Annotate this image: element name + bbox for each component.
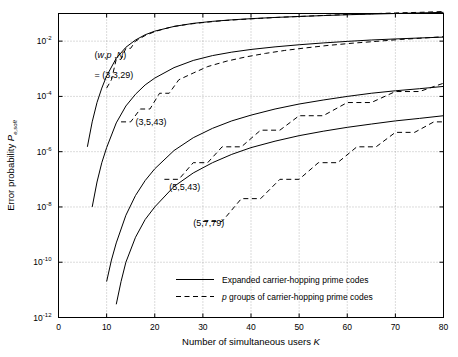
series-group [87,12,443,305]
ytick-label: 10-6 [37,146,52,157]
legend: Expanded carrier-hopping prime codesp gr… [176,275,373,302]
annotation-4: (5,7,79) [193,218,224,228]
ytick-label: 10-12 [33,312,52,323]
legend-label-1: p groups of carrier-hopping prime codes [221,292,373,302]
xtick-label: 0 [56,322,61,332]
chart-svg: 0102030405060708010-210-410-610-810-1010… [0,0,458,357]
xtick-label: 20 [150,322,160,332]
ytick-label: 10-10 [33,256,52,267]
y-axis-label: Error probability Pe,soft [5,120,18,211]
xtick-label: 60 [343,322,353,332]
figure-canvas: 0102030405060708010-210-410-610-810-1010… [0,0,458,357]
x-axis-label: Number of simultaneous users K [182,336,320,347]
legend-label-0: Expanded carrier-hopping prime codes [222,275,368,285]
series-line-7 [203,122,444,222]
annotation-1: = (3,3,29) [95,70,134,80]
xtick-label: 50 [294,322,304,332]
xtick-label: 70 [391,322,401,332]
xtick-label: 10 [102,322,112,332]
ytick-label: 10-2 [37,35,52,46]
xtick-label: 80 [439,322,449,332]
xtick-label: 40 [246,322,256,332]
ytick-label: 10-8 [37,201,52,212]
ytick-label: 10-4 [37,90,52,101]
annotation-3: (5,5,43) [169,182,200,192]
annotation-2: (3,5,43) [136,117,167,127]
xtick-label: 30 [198,322,208,332]
series-line-3 [121,37,443,122]
annotation-0: (w,p ,N) [95,50,127,60]
